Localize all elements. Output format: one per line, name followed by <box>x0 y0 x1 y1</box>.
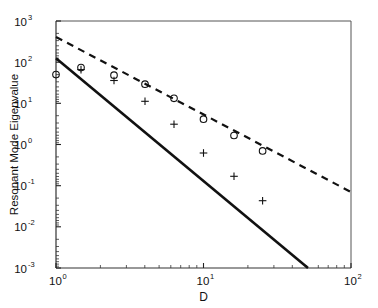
x-tick-exponent: 0 <box>63 272 67 281</box>
y-tick-mantissa: 10 <box>14 263 27 275</box>
x-tick-mantissa: 10 <box>344 275 357 287</box>
y-tick-exponent: 3 <box>28 13 32 22</box>
y-axis-title: Resonant Mode Eigenvalue <box>8 74 20 215</box>
x-tick-exponent: 2 <box>358 272 362 281</box>
y-tick-exponent: 2 <box>28 54 32 63</box>
y-tick-exponent: -2 <box>28 218 35 227</box>
y-tick-exponent: -3 <box>28 260 35 269</box>
x-tick-exponent: 1 <box>210 272 214 281</box>
y-tick-exponent: 0 <box>28 136 32 145</box>
y-tick-exponent: -1 <box>28 177 35 186</box>
resonant-mode-eigenvalue-chart: 10 3 10 2 10 1 10 0 10 -1 10 -2 10 -3 10… <box>0 0 378 308</box>
x-tick-mantissa: 10 <box>49 275 62 287</box>
y-tick-mantissa: 10 <box>14 221 27 233</box>
x-tick-mantissa: 10 <box>197 275 210 287</box>
chart-figure: 10 3 10 2 10 1 10 0 10 -1 10 -2 10 -3 10… <box>0 0 378 308</box>
y-tick-mantissa: 10 <box>14 57 27 69</box>
y-tick-mantissa: 10 <box>14 16 27 28</box>
y-tick-exponent: 1 <box>28 95 32 104</box>
x-axis-title: D <box>199 290 208 304</box>
